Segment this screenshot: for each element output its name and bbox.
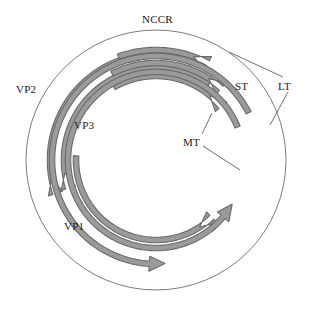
mt-leader-lower — [203, 146, 240, 170]
lt-leader-lower — [270, 92, 288, 125]
gene-label-mt: MT — [183, 137, 200, 148]
gene-label-vp1: VP1 — [64, 221, 84, 232]
gene-label-st: ST — [235, 81, 248, 92]
genome-svg — [0, 0, 310, 310]
lt-leader-upper — [229, 52, 283, 77]
gene-arrows-layer — [47, 47, 251, 271]
gene-label-lt: LT — [278, 81, 291, 92]
mt-leader-upper — [202, 113, 212, 134]
gene-label-nccr: NCCR — [142, 14, 173, 25]
lt-inner-arrow — [65, 69, 240, 250]
vp1-arrow — [73, 156, 217, 243]
gene-label-vp2: VP2 — [16, 84, 36, 95]
genome-diagram: NCCRVP2VP3VP1STLTMT — [0, 0, 310, 310]
gene-label-vp3: VP3 — [74, 120, 94, 131]
